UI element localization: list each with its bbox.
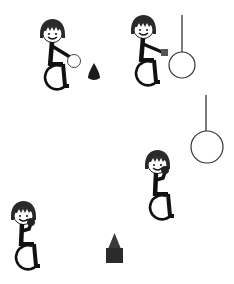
block-icon — [106, 248, 123, 263]
hanging-ring-2 — [191, 95, 223, 163]
hanging-ring-1 — [169, 15, 195, 78]
ring-icon — [169, 52, 195, 78]
held-square-icon — [161, 49, 168, 56]
wheelchair-icon — [136, 60, 160, 85]
torso — [155, 173, 156, 196]
child-head-icon — [40, 19, 65, 43]
cone-top-icon — [108, 233, 121, 249]
block-with-cone — [106, 233, 123, 263]
wheelchair-icon — [45, 64, 69, 89]
cone-icon — [88, 63, 100, 80]
child-head-icon — [131, 15, 156, 39]
figure-1 — [40, 19, 81, 89]
ring-icon — [191, 131, 223, 163]
wheelchair-icon — [16, 244, 40, 269]
white-ball-icon — [68, 55, 81, 68]
torso — [21, 224, 22, 246]
dark-ball-icon — [27, 218, 35, 226]
figure-2 — [131, 15, 168, 85]
arm — [143, 44, 162, 52]
wheelchair-icon — [150, 194, 174, 219]
dark-ball-icon — [161, 166, 169, 174]
figure-4 — [11, 201, 40, 269]
pictogram-scene — [0, 0, 234, 284]
arm — [52, 46, 70, 57]
figure-3 — [145, 150, 174, 219]
